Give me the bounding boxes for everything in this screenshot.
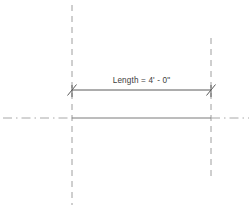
sheet-background	[0, 0, 252, 208]
dimension-label[interactable]: Length = 4' - 0"	[113, 76, 171, 85]
cad-drawing-svg: Length = 4' - 0"	[0, 0, 252, 208]
cad-drawing-canvas: Length = 4' - 0"	[0, 0, 252, 208]
